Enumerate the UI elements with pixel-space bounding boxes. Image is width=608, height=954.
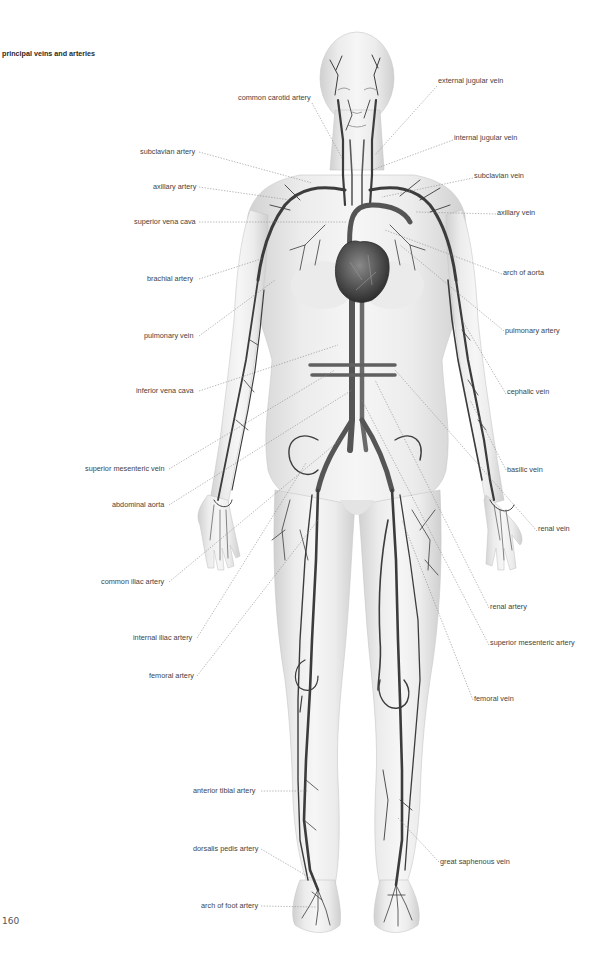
label-renal-artery: renal artery bbox=[490, 602, 527, 611]
label-superior-mesenteric-artery: superior mesenteric artery bbox=[490, 638, 575, 647]
label-pulmonary-vein: pulmonary vein bbox=[144, 331, 193, 340]
label-arch-of-aorta: arch of aorta bbox=[503, 268, 544, 277]
label-femoral-artery: femoral artery bbox=[149, 671, 194, 680]
label-axillary-artery: axillary artery bbox=[153, 182, 196, 191]
label-axillary-vein: axillary vein bbox=[497, 208, 535, 217]
label-basilic-vein: basilic vein bbox=[507, 465, 543, 474]
label-arch-of-foot-artery: arch of foot artery bbox=[201, 901, 258, 910]
label-renal-vein: renal vein bbox=[538, 524, 570, 533]
label-internal-jugular-vein: internal jugular vein bbox=[454, 133, 517, 142]
label-subclavian-vein: subclavian vein bbox=[474, 171, 524, 180]
label-cephalic-vein: cephalic vein bbox=[507, 387, 549, 396]
page-number: 160 bbox=[2, 916, 19, 926]
label-femoral-vein: femoral vein bbox=[474, 694, 514, 703]
label-great-saphenous-vein: great saphenous vein bbox=[440, 857, 510, 866]
label-external-jugular-vein: external jugular vein bbox=[438, 76, 503, 85]
anatomy-figure bbox=[0, 0, 608, 954]
label-common-carotid-artery: common carotid artery bbox=[238, 93, 311, 102]
label-pulmonary-artery: pulmonary artery bbox=[505, 326, 560, 335]
label-brachial-artery: brachial artery bbox=[147, 274, 193, 283]
label-anterior-tibial-artery: anterior tibial artery bbox=[193, 786, 255, 795]
label-common-iliac-artery: common iliac artery bbox=[101, 577, 164, 586]
label-abdominal-aorta: abdominal aorta bbox=[112, 500, 164, 509]
body-silhouette bbox=[198, 32, 522, 933]
label-superior-mesenteric-vein: superior mesenteric vein bbox=[85, 464, 165, 473]
label-dorsalis-pedis-artery: dorsalis pedis artery bbox=[193, 844, 258, 853]
label-superior-vena-cava: superior vena cava bbox=[134, 217, 196, 226]
label-inferior-vena-cava: inferior vena cava bbox=[136, 386, 194, 395]
label-internal-iliac-artery: internal iliac artery bbox=[133, 633, 192, 642]
label-subclavian-artery: subclavian artery bbox=[140, 147, 195, 156]
